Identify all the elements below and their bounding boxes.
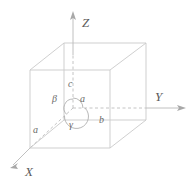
param-label-a-center: a <box>80 93 85 104</box>
param-label-c: c <box>68 78 73 89</box>
axis-y: Y <box>73 89 186 111</box>
cube-edge-connect-top-left <box>30 43 64 70</box>
axis-label-z: Z <box>82 15 90 30</box>
axis-label-y: Y <box>155 89 164 104</box>
axis-x-line <box>13 148 30 165</box>
axis-label-x: X <box>24 164 34 179</box>
param-label-a-x: a <box>33 124 38 135</box>
unit-cell-diagram: Z Y X c a β γ a b <box>0 0 188 181</box>
param-label-b: b <box>99 114 104 125</box>
cube-edge-connect-top-right <box>110 43 146 70</box>
angle-label-beta: β <box>51 93 57 104</box>
cube-edge-connect-bottom-right <box>110 120 146 148</box>
crystal-unit-cell-figure: Z Y X c a β γ a b <box>0 0 188 181</box>
